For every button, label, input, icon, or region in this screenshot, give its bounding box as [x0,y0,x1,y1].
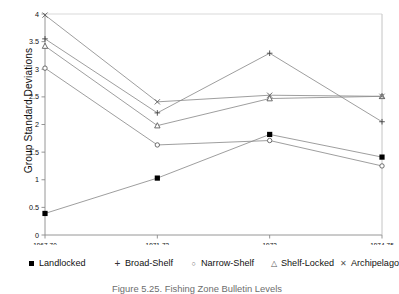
line-chart-svg: 00.511.522.533.541967-701971-7319731974-… [0,0,394,245]
legend-label: Broad-Shelf [125,258,173,268]
plus-icon: + [112,259,123,268]
y-axis-tick-label: 0 [35,231,39,240]
y-axis-tick-label: 1 [35,175,39,184]
figure-caption: Figure 5.25. Fishing Zone Bulletin Level… [0,283,394,294]
legend-item-landlocked: Landlocked [26,258,86,268]
x-axis-tick-label: 1967-70 [33,242,57,245]
series-landlocked [42,132,384,216]
legend-label: Landlocked [39,258,86,268]
open-triangle-icon: △ [268,259,279,268]
legend-item-broad-shelf: + Broad-Shelf [112,258,173,268]
legend-label: Archipelago [351,258,399,268]
y-axis-tick-label: 4 [35,10,39,19]
y-axis-tick-label: 0.5 [29,203,39,212]
x-axis-tick-label: 1974-75 [370,242,394,245]
chart-legend: Landlocked + Broad-Shelf ○ Narrow-Shelf … [0,255,394,271]
series-archipelago [42,13,384,105]
x-axis-tick-label: 1971-73 [146,242,170,245]
legend-item-narrow-shelf: ○ Narrow-Shelf [188,258,254,268]
y-axis-tick-label: 2 [35,120,39,129]
y-axis-title: Group Standard Deviations [23,21,34,201]
legend-label: Shelf-Locked [281,258,334,268]
series-shelf-locked [42,43,384,128]
filled-square-icon [26,259,37,268]
cross-icon: ✕ [338,259,349,268]
open-circle-icon: ○ [188,259,199,268]
y-axis-tick-label: 3 [35,65,39,74]
legend-label: Narrow-Shelf [201,258,254,268]
legend-item-shelf-locked: △ Shelf-Locked [268,258,334,268]
legend-item-archipelago: ✕ Archipelago [338,258,399,268]
chart-plot-area: 00.511.522.533.541967-701971-7319731974-… [0,0,394,245]
x-axis-tick-label: 1973 [263,242,278,245]
